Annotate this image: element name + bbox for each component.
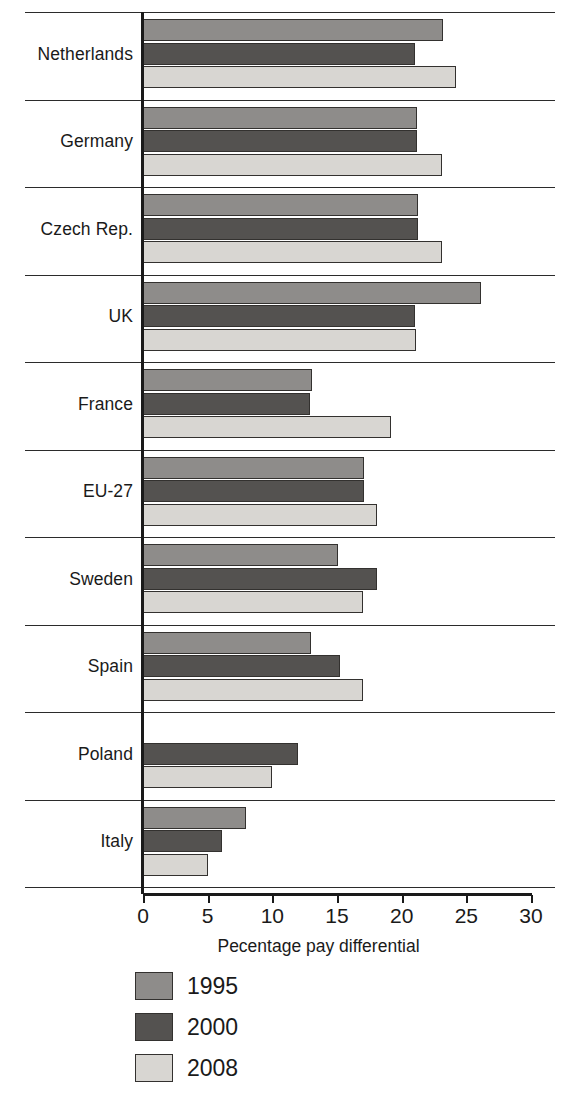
legend-item-2008: 2008	[135, 1050, 435, 1091]
x-tick	[143, 895, 145, 903]
legend-item-2000: 2000	[135, 1009, 435, 1050]
category-separator	[25, 537, 555, 538]
bar-poland-2000	[143, 743, 298, 765]
x-tick	[402, 895, 404, 903]
bar-france-2008	[143, 416, 391, 438]
x-tick	[466, 895, 468, 903]
category-label-france: France	[0, 394, 133, 415]
bar-france-2000	[143, 393, 310, 415]
x-tick-label-25: 25	[446, 904, 486, 928]
bar-sweden-1995	[143, 544, 338, 566]
bar-italy-2008	[143, 854, 208, 876]
legend-swatch-1995-icon	[135, 972, 173, 1000]
category-separator	[25, 100, 555, 101]
category-separator	[25, 187, 555, 188]
bar-czech-rep-2008	[143, 241, 442, 263]
x-tick-label-5: 5	[188, 904, 228, 928]
bar-eu-27-1995	[143, 457, 364, 479]
bar-sweden-2000	[143, 568, 377, 590]
bar-eu-27-2008	[143, 504, 377, 526]
x-tick-label-30: 30	[511, 904, 551, 928]
legend-label-2000: 2000	[187, 1009, 238, 1045]
bar-italy-1995	[143, 807, 246, 829]
bar-france-1995	[143, 369, 312, 391]
bar-netherlands-1995	[143, 19, 443, 41]
x-tick	[337, 895, 339, 903]
category-separator	[25, 12, 555, 13]
legend-swatch-2000-icon	[135, 1013, 173, 1041]
x-tick-label-0: 0	[123, 904, 163, 928]
x-tick-label-15: 15	[317, 904, 357, 928]
legend-label-1995: 1995	[187, 968, 238, 1004]
legend-swatch-2008-icon	[135, 1054, 173, 1082]
x-tick	[531, 895, 533, 903]
x-tick-label-20: 20	[382, 904, 422, 928]
bar-poland-2008	[143, 766, 272, 788]
category-label-eu-27: EU-27	[0, 481, 133, 502]
bar-italy-2000	[143, 830, 222, 852]
legend-label-2008: 2008	[187, 1050, 238, 1086]
bar-germany-2000	[143, 130, 417, 152]
legend-item-1995: 1995	[135, 968, 435, 1009]
category-separator	[25, 887, 555, 888]
category-separator	[25, 800, 555, 801]
category-label-italy: Italy	[0, 831, 133, 852]
bar-spain-2008	[143, 679, 363, 701]
x-tick	[208, 895, 210, 903]
bar-uk-2008	[143, 329, 416, 351]
category-separator	[25, 625, 555, 626]
chart-legend: 1995 2000 2008	[135, 968, 435, 1091]
category-separator	[25, 712, 555, 713]
bar-netherlands-2008	[143, 66, 456, 88]
bar-germany-1995	[143, 107, 417, 129]
category-label-czech-rep: Czech Rep.	[0, 219, 133, 240]
bar-germany-2008	[143, 154, 442, 176]
category-label-poland: Poland	[0, 744, 133, 765]
plot-area: NetherlandsGermanyCzech Rep.UKFranceEU-2…	[0, 12, 567, 890]
bar-eu-27-2000	[143, 480, 364, 502]
category-separator	[25, 450, 555, 451]
category-label-sweden: Sweden	[0, 569, 133, 590]
bar-czech-rep-2000	[143, 218, 418, 240]
y-axis-line	[141, 12, 144, 894]
bar-uk-1995	[143, 282, 481, 304]
category-label-spain: Spain	[0, 656, 133, 677]
bar-uk-2000	[143, 305, 415, 327]
category-label-germany: Germany	[0, 131, 133, 152]
bar-chart: NetherlandsGermanyCzech Rep.UKFranceEU-2…	[0, 0, 567, 1097]
category-label-uk: UK	[0, 306, 133, 327]
bar-netherlands-2000	[143, 43, 415, 65]
bar-sweden-2008	[143, 591, 363, 613]
bar-czech-rep-1995	[143, 194, 418, 216]
x-tick	[272, 895, 274, 903]
category-separator	[25, 362, 555, 363]
bar-spain-2000	[143, 655, 340, 677]
category-label-netherlands: Netherlands	[0, 44, 133, 65]
x-axis-title: Pecentage pay differential	[0, 936, 567, 957]
bar-spain-1995	[143, 632, 311, 654]
category-separator	[25, 275, 555, 276]
x-tick-label-10: 10	[252, 904, 292, 928]
